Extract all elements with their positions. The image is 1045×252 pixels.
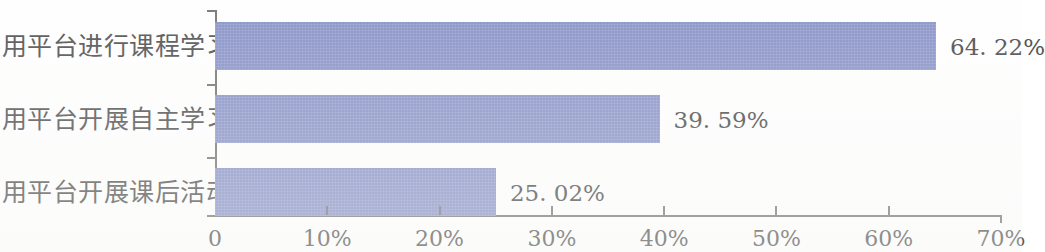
x-axis-tick (326, 206, 328, 215)
plot-area: 64. 22% 39. 59% 25. 02% 010%20%30%40%50%… (215, 10, 1001, 217)
category-label: 利用平台开展课后活动 (0, 180, 216, 205)
x-axis-tick-label: 10% (303, 228, 352, 250)
bar-value-label: 39. 59% (674, 109, 769, 132)
x-axis-tick-label: 30% (527, 228, 576, 250)
bar-value-label: 25. 02% (510, 182, 605, 205)
x-axis-tick (1000, 215, 1002, 223)
x-axis-tick (551, 206, 553, 215)
x-axis-tick-label: 20% (415, 228, 464, 250)
bar-value-label: 64. 22% (950, 36, 1045, 59)
x-axis-tick-label: 70% (977, 228, 1026, 250)
y-axis-tick (207, 10, 215, 12)
x-axis-tick-label: 40% (640, 228, 689, 250)
x-axis-tick-label: 50% (752, 228, 801, 250)
x-axis-tick (775, 206, 777, 215)
y-axis-tick (207, 84, 215, 86)
y-axis-tick (207, 157, 215, 159)
category-label: 利用平台进行课程学习 (0, 34, 216, 59)
bar (215, 95, 660, 143)
x-axis-tick (888, 206, 890, 215)
bar (215, 22, 936, 70)
x-axis-tick-label: 60% (864, 228, 913, 250)
x-axis-tick (439, 206, 441, 215)
y-axis-tick (207, 215, 215, 217)
x-axis-tick-label: 0 (208, 228, 222, 250)
bar (215, 168, 496, 216)
x-axis-tick (663, 206, 665, 215)
category-label: 利用平台开展自主学习 (0, 107, 216, 132)
